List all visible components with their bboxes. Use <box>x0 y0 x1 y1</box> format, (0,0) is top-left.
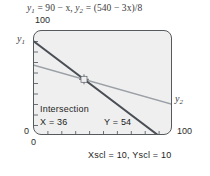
curve-label-y2-subscript: 2 <box>179 98 183 106</box>
title-equation: y1 = 90 − x, y2 = (540 − 3x)/8 <box>27 3 142 15</box>
curve-label-y1-subscript: 1 <box>21 38 25 46</box>
title-y2-expression: = (540 − 3x)/8 <box>86 3 143 13</box>
intersection-label: Intersection <box>40 104 89 114</box>
x-axis-ticks <box>48 131 159 135</box>
title-y2-subscript: 2 <box>80 7 84 15</box>
title-y1-subscript: 1 <box>31 7 35 15</box>
x-axis-min-label: 0 <box>31 137 36 147</box>
y-axis-max-label: 100 <box>35 15 50 25</box>
scale-note: Xscl = 10, Yscl = 10 <box>88 150 171 160</box>
curve-label-y2: y2 <box>175 93 183 106</box>
curve-label-y1: y1 <box>17 33 25 46</box>
y-axis-ticks <box>34 42 38 126</box>
intersection-x-value: X = 36 <box>40 117 67 127</box>
x-axis-max-label: 100 <box>177 126 192 136</box>
y-axis-min-label: 0 <box>24 126 29 136</box>
intersection-y-value: Y = 54 <box>104 117 131 127</box>
line-y2 <box>34 65 172 104</box>
title-y1-expression: = 90 − x, <box>37 3 72 13</box>
graphing-calculator-screen[interactable]: Intersection X = 36 Y = 54 <box>33 30 172 135</box>
